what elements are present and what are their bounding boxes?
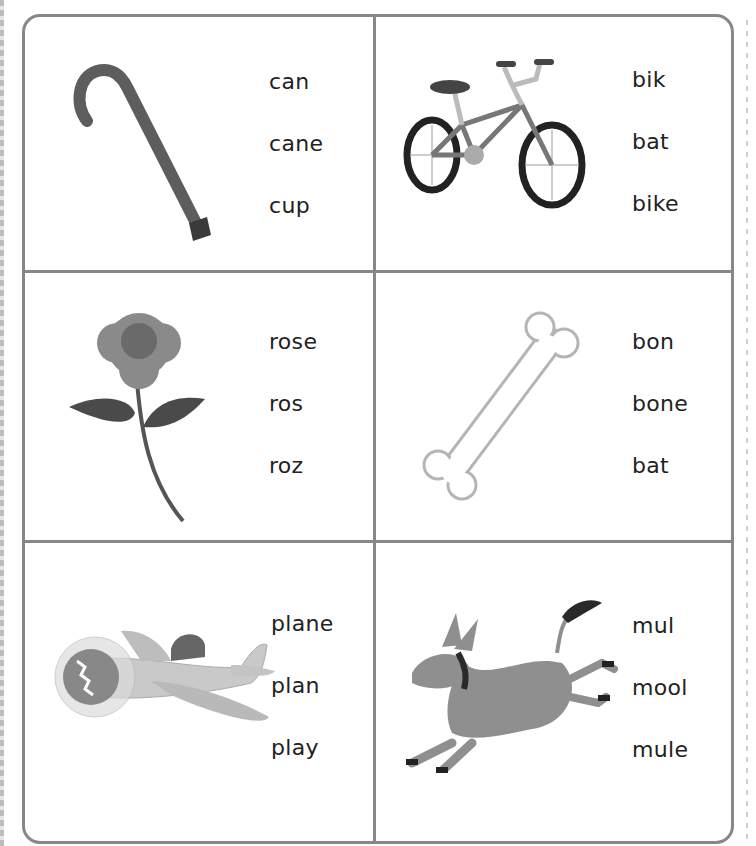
word-option[interactable]: bike: [632, 193, 679, 255]
worksheet-grid: can cane cup: [22, 14, 734, 844]
plane-icon: [51, 621, 281, 741]
word-options: mul mool mule: [632, 615, 688, 801]
word-option[interactable]: cane: [269, 133, 323, 195]
word-option[interactable]: bik: [632, 69, 679, 131]
word-option[interactable]: bat: [632, 455, 688, 517]
bike-icon: [402, 55, 598, 225]
word-option[interactable]: can: [269, 71, 323, 133]
word-options: bon bone bat: [632, 331, 688, 517]
page-edge-dashes: [746, 20, 748, 840]
cell-plane: plane plan play: [25, 543, 376, 841]
word-option[interactable]: rose: [269, 331, 317, 393]
cell-bone: bon bone bat: [376, 273, 731, 543]
bone-icon: [420, 305, 590, 505]
mule-icon: [402, 593, 622, 773]
word-options: can cane cup: [269, 71, 323, 257]
word-option[interactable]: plane: [271, 613, 334, 675]
rose-icon: [69, 301, 229, 531]
word-option[interactable]: mool: [632, 677, 688, 739]
word-option[interactable]: mul: [632, 615, 688, 677]
word-option[interactable]: play: [271, 737, 334, 799]
word-option[interactable]: bat: [632, 131, 679, 193]
word-option[interactable]: roz: [269, 455, 317, 517]
cell-bike: bik bat bike: [376, 17, 731, 273]
word-options: plane plan play: [271, 613, 334, 799]
word-option[interactable]: bon: [632, 331, 688, 393]
word-option[interactable]: ros: [269, 393, 317, 455]
word-option[interactable]: bone: [632, 393, 688, 455]
word-options: bik bat bike: [632, 69, 679, 255]
cell-rose: rose ros roz: [25, 273, 376, 543]
page-edge-texture: [0, 0, 4, 846]
cell-mule: mul mool mule: [376, 543, 731, 841]
cell-cane: can cane cup: [25, 17, 376, 273]
word-option[interactable]: plan: [271, 675, 334, 737]
word-options: rose ros roz: [269, 331, 317, 517]
word-option[interactable]: mule: [632, 739, 688, 801]
cane-icon: [69, 55, 219, 245]
word-option[interactable]: cup: [269, 195, 323, 257]
